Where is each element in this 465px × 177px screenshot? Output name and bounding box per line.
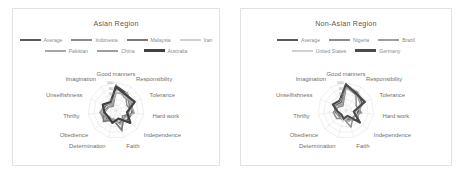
legend-item[interactable]: Indonesia: [71, 37, 117, 43]
axis-label: Obedience: [290, 132, 318, 138]
legend-row: AverageNigeriaBrazil: [247, 34, 445, 45]
legend-swatch-icon: [378, 39, 399, 41]
legend-label: Iran: [204, 37, 213, 43]
legend-swatch-icon: [180, 39, 201, 41]
legend-swatch-icon: [144, 49, 165, 51]
legend-item[interactable]: Australia: [144, 48, 188, 54]
legend-row: United StatesGermany: [247, 45, 445, 56]
legend-label: Germany: [379, 48, 400, 54]
legend-non-asian: AverageNigeriaBrazilUnited StatesGermany: [247, 34, 445, 56]
axis-label: Good manners: [97, 71, 136, 77]
legend-item[interactable]: Malaysia: [127, 37, 171, 43]
legend-label: Nigeria: [353, 37, 369, 43]
legend-item[interactable]: Germany: [355, 48, 400, 54]
axis-label: Determination: [69, 143, 106, 149]
axis-label: Independence: [374, 132, 411, 138]
radial-tick-label: 40: [109, 97, 114, 102]
legend-swatch-icon: [292, 50, 313, 52]
legend-asian: AverageIndonesiaMalaysiaIranPakistanChin…: [19, 34, 213, 56]
legend-item[interactable]: Nigeria: [329, 37, 369, 43]
legend-swatch-icon: [45, 50, 66, 52]
legend-row: PakistanChinaAustralia: [19, 45, 213, 56]
legend-label: Average: [44, 37, 63, 43]
radial-tick-label: 40: [339, 97, 344, 102]
radar-chart-asian: 20406080100Good mannersResponsibilityTol…: [13, 56, 219, 163]
legend-item[interactable]: Average: [20, 37, 63, 43]
legend-swatch-icon: [71, 39, 92, 41]
axis-label: Faith: [126, 143, 139, 149]
legend-item[interactable]: Average: [277, 37, 320, 43]
page-title: Asian Region: [13, 19, 219, 28]
axis-label: Tolerance: [379, 92, 404, 98]
radial-tick-label: 60: [109, 91, 114, 96]
legend-label: Pakistan: [69, 48, 89, 54]
axis-label: Responsibility: [366, 76, 402, 82]
axis-label: Unselfishness: [46, 92, 83, 98]
legend-label: Average: [301, 37, 320, 43]
radial-tick-label: 100: [107, 80, 115, 85]
radial-tick-label: 80: [109, 86, 114, 91]
axis-label: Obedience: [60, 132, 88, 138]
radial-tick-label: 80: [339, 86, 344, 91]
legend-label: United States: [316, 48, 347, 54]
axis-label: Hard work: [152, 113, 179, 119]
legend-item[interactable]: Pakistan: [45, 48, 89, 54]
radial-tick-label: 100: [337, 80, 345, 85]
legend-item[interactable]: Brazil: [378, 37, 415, 43]
legend-item[interactable]: China: [97, 48, 134, 54]
axis-label: Imagination: [66, 76, 96, 82]
legend-swatch-icon: [355, 49, 376, 51]
radar-chart-non-asian: 20406080100Good mannersResponsibilityTol…: [241, 56, 451, 163]
legend-swatch-icon: [329, 39, 350, 41]
legend-row: AverageIndonesiaMalaysiaIran: [19, 34, 213, 45]
legend-item[interactable]: Iran: [180, 37, 213, 43]
axis-label: Thrifty: [293, 113, 309, 119]
axis-label: Independence: [144, 132, 181, 138]
axis-label: Faith: [356, 143, 369, 149]
legend-swatch-icon: [97, 50, 118, 52]
legend-label: China: [121, 48, 134, 54]
legend-swatch-icon: [20, 39, 41, 41]
axis-label: Determination: [299, 143, 336, 149]
axis-label: Unselfishness: [276, 92, 313, 98]
radial-tick-label: 60: [339, 91, 344, 96]
page-title: Non-Asian Region: [241, 19, 451, 28]
radial-tick-label: 20: [109, 102, 114, 107]
figure-container: Asian Region AverageIndonesiaMalaysiaIra…: [0, 0, 465, 177]
legend-label: Brazil: [402, 37, 415, 43]
axis-label: Responsibility: [136, 76, 172, 82]
legend-label: Australia: [168, 48, 188, 54]
radial-tick-label: 20: [339, 102, 344, 107]
axis-label: Imagination: [296, 76, 326, 82]
legend-swatch-icon: [277, 39, 298, 41]
legend-label: Indonesia: [95, 37, 117, 43]
axis-label: Good manners: [327, 71, 366, 77]
chart-panel-asian: Asian Region AverageIndonesiaMalaysiaIra…: [12, 8, 220, 166]
legend-swatch-icon: [127, 39, 148, 41]
chart-panel-non-asian: Non-Asian Region AverageNigeriaBrazilUni…: [240, 8, 452, 166]
legend-label: Malaysia: [151, 37, 171, 43]
legend-item[interactable]: United States: [292, 48, 347, 54]
axis-label: Hard work: [382, 113, 409, 119]
axis-label: Thrifty: [63, 113, 79, 119]
axis-label: Tolerance: [149, 92, 174, 98]
